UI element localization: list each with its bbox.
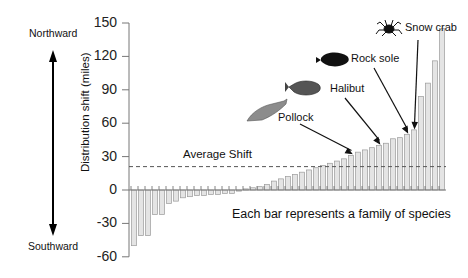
y-tick-label: -60 — [97, 248, 117, 264]
direction-arrow-icon — [49, 50, 57, 236]
y-tick-label: 0 — [109, 181, 117, 197]
bar — [265, 184, 270, 190]
bar — [440, 29, 445, 190]
bar — [426, 83, 431, 190]
bar — [398, 138, 403, 190]
bar — [216, 190, 221, 194]
bar — [160, 190, 165, 214]
bar — [405, 134, 410, 190]
bar — [300, 172, 305, 190]
bar — [167, 190, 172, 203]
y-tick-label: 30 — [101, 148, 117, 164]
distribution-shift-chart — [0, 0, 468, 278]
bar — [328, 163, 333, 190]
bar — [146, 190, 151, 236]
y-tick-label: 150 — [94, 14, 117, 30]
bar — [349, 155, 354, 190]
snow-crab-icon — [376, 20, 402, 36]
bar — [279, 179, 284, 190]
bar — [286, 177, 291, 190]
bar — [132, 190, 137, 246]
average-shift-label: Average Shift — [183, 148, 252, 160]
bar — [153, 190, 158, 214]
snow-crab-label: Snow crab — [405, 21, 457, 33]
y-tick-label: 60 — [101, 114, 117, 130]
bar — [370, 148, 375, 190]
bar — [314, 168, 319, 190]
bar — [391, 139, 396, 190]
y-tick-label: 120 — [94, 47, 117, 63]
northward-label: Northward — [29, 27, 77, 39]
bar — [412, 130, 417, 190]
halibut-fish-icon — [285, 81, 320, 95]
bar — [433, 61, 438, 190]
bar — [272, 181, 277, 190]
rock-sole-label: Rock sole — [351, 52, 399, 64]
bar — [321, 166, 326, 190]
bar — [223, 190, 228, 193]
bar — [181, 190, 186, 198]
bar — [174, 190, 179, 201]
bar — [356, 152, 361, 190]
y-tick-label: 90 — [101, 81, 117, 97]
bar — [209, 190, 214, 194]
bar — [342, 159, 347, 190]
bar — [419, 96, 424, 190]
bar — [293, 174, 298, 190]
bar — [377, 145, 382, 190]
southward-label: Southward — [28, 240, 78, 252]
bar — [258, 187, 263, 190]
bar — [139, 190, 144, 236]
halibut-label: Halibut — [330, 82, 364, 94]
y-axis-label: Distribution shift (miles) — [79, 53, 91, 173]
bar — [230, 190, 235, 193]
bar — [188, 190, 193, 197]
chart-note: Each bar represents a family of species — [232, 207, 451, 221]
bar — [202, 190, 207, 196]
bar — [195, 190, 200, 196]
rock-sole-fish-icon — [316, 52, 349, 66]
bar — [307, 170, 312, 190]
bar — [363, 150, 368, 190]
bar — [335, 161, 340, 190]
pollock-label: Pollock — [278, 111, 313, 123]
y-tick-label: -30 — [97, 214, 117, 230]
